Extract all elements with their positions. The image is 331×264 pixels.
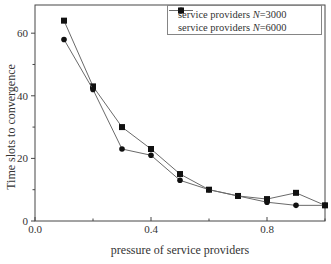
data-point-circle xyxy=(119,146,125,152)
legend: service providers N=3000 service provide… xyxy=(167,5,322,35)
data-point-square xyxy=(61,18,67,24)
x-axis-label: pressure of service providers xyxy=(35,243,325,258)
figure-line-chart: 02040600.00.40.8 service providers N=300… xyxy=(0,0,331,264)
legend-label-n3000: service providers N=3000 xyxy=(178,8,287,21)
x-tick-label: 0.4 xyxy=(144,223,158,235)
legend-item-n6000: service providers N=6000 xyxy=(174,21,321,34)
data-point-circle xyxy=(148,152,154,158)
data-point-square xyxy=(148,146,154,152)
data-point-circle xyxy=(293,203,299,209)
y-tick-label: 40 xyxy=(17,90,29,102)
data-point-circle xyxy=(177,178,183,184)
y-tick-label: 60 xyxy=(17,27,29,39)
legend-label-n6000: service providers N=6000 xyxy=(178,21,287,34)
legend-item-n3000: service providers N=3000 xyxy=(174,8,321,21)
data-point-circle xyxy=(90,87,96,93)
y-tick-label: 20 xyxy=(17,152,29,164)
data-point-circle xyxy=(206,187,212,193)
series-line-n6000 xyxy=(64,39,325,205)
data-point-circle xyxy=(322,203,328,209)
x-tick-label: 0.8 xyxy=(260,223,274,235)
data-point-circle xyxy=(235,193,241,199)
data-point-circle xyxy=(61,37,67,43)
y-axis-label: Time slots to convergence xyxy=(4,64,19,190)
data-point-square xyxy=(293,190,299,196)
x-tick-label: 0.0 xyxy=(28,223,42,235)
data-point-square xyxy=(119,124,125,130)
series-line-n3000 xyxy=(64,21,325,206)
chart-canvas: 02040600.00.40.8 xyxy=(0,0,331,264)
plot-frame xyxy=(35,5,325,221)
data-point-square xyxy=(177,171,183,177)
data-point-circle xyxy=(264,199,270,205)
